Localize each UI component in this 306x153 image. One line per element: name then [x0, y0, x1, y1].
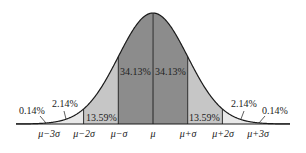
label-right-middle: 13.59%	[189, 112, 220, 123]
axis-label-mu-plus-2sigma: μ+2σ	[211, 128, 235, 139]
label-left-outer: 2.14%	[52, 98, 78, 109]
leader-left-outer	[64, 111, 66, 119]
label-right-inner: 34.13%	[155, 66, 186, 77]
axis-label-mu-plus-3sigma: μ+3σ	[246, 128, 270, 139]
leader-right-outer	[241, 111, 244, 119]
axis-label-mu-minus-3sigma: μ−3σ	[37, 128, 61, 139]
label-right-tail: 0.14%	[262, 105, 288, 116]
leader-left-tail	[40, 116, 46, 123]
label-left-middle: 13.59%	[86, 112, 117, 123]
label-left-inner: 34.13%	[120, 66, 151, 77]
axis-label-mu: μ	[149, 128, 155, 139]
label-left-tail: 0.14%	[19, 105, 45, 116]
normal-distribution-chart: 0.14% 2.14% 13.59% 34.13% 34.13% 13.59% …	[0, 0, 306, 153]
axis-label-mu-minus-2sigma: μ−2σ	[72, 128, 96, 139]
axis-label-mu-minus-sigma: μ−σ	[110, 128, 129, 139]
axis-label-mu-plus-sigma: μ+σ	[179, 128, 198, 139]
label-right-outer: 2.14%	[231, 98, 257, 109]
leader-right-tail	[259, 116, 265, 123]
